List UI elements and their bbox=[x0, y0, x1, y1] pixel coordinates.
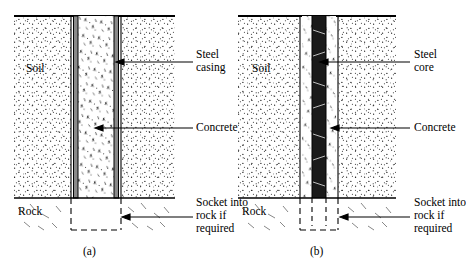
panel-b-steel-core-callout: Steel core bbox=[414, 48, 437, 74]
panel-b-steel-core-line2: core bbox=[414, 61, 437, 74]
panel-b-socket-line1: Socket into bbox=[414, 196, 466, 209]
panel-a-soil-label: Soil bbox=[26, 62, 45, 75]
panel-b-socket-callout: Socket into rock if required bbox=[414, 196, 466, 236]
panel-a-caption: (a) bbox=[83, 245, 96, 257]
panel-a-steel-casing-line2: casing bbox=[196, 61, 225, 74]
panel-a-steel-casing-callout: Steel casing bbox=[196, 48, 225, 74]
panel-b-caption: (b) bbox=[310, 245, 323, 257]
panel-b-steel-core-line1: Steel bbox=[414, 48, 437, 61]
panel-b-socket-line2: rock if bbox=[414, 209, 466, 222]
panel-a-rock-label: Rock bbox=[18, 205, 42, 218]
panel-a-steel-casing-line1: Steel bbox=[196, 48, 225, 61]
panel-b-socket-line3: required bbox=[414, 222, 466, 235]
panel-b-concrete-callout: Concrete bbox=[414, 121, 456, 134]
panel-b-rock-label: Rock bbox=[242, 205, 266, 218]
panel-b-soil-label: Soil bbox=[252, 62, 271, 75]
